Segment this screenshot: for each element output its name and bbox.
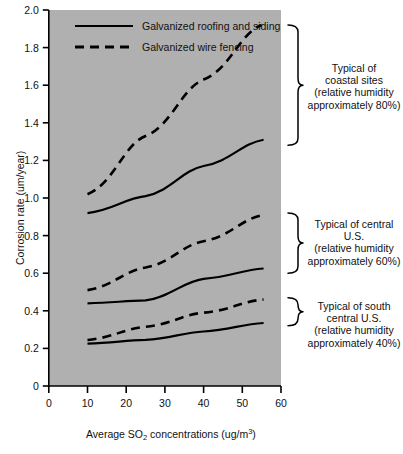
- annotation-line: approximately 40%): [306, 337, 402, 349]
- y-tick-label: 1.6: [24, 79, 39, 91]
- y-axis-tick-labels: 00.20.40.60.81.01.21.41.61.82.0: [24, 4, 39, 392]
- annotation-line: Typical of: [306, 62, 402, 74]
- y-axis-title: Corrosion rate (um/year): [14, 151, 26, 265]
- y-axis-ticks: [43, 10, 49, 386]
- y-tick-label: 1.4: [24, 117, 39, 129]
- x-tick-label: 30: [159, 397, 171, 409]
- legend-label: Galvanized roofing and siding: [142, 20, 281, 32]
- x-tick-label: 40: [198, 397, 210, 409]
- y-tick-label: 1.8: [24, 42, 39, 54]
- x-axis-title-sup: 3: [248, 427, 252, 436]
- y-tick-label: 2.0: [24, 4, 39, 16]
- annotation-line: (relative humidity: [306, 242, 402, 254]
- x-axis-ticks: [49, 386, 281, 393]
- annotation-brackets: [288, 25, 303, 326]
- annotation-line: (relative humidity: [306, 86, 402, 98]
- legend-label: Galvanized wire fencing: [142, 41, 254, 53]
- annotation-line: U.S.: [306, 230, 402, 242]
- x-axis-tick-labels: 0102030405060: [46, 397, 287, 409]
- x-axis-title-post: ): [252, 428, 256, 440]
- annotation-central: Typical of centralU.S.(relative humidity…: [306, 218, 402, 267]
- annotation-line: approximately 60%): [306, 255, 402, 267]
- annotation-line: central U.S.: [306, 312, 402, 324]
- y-tick-label: 0.8: [24, 230, 39, 242]
- annotation-line: (relative humidity: [306, 324, 402, 336]
- x-tick-label: 10: [82, 397, 94, 409]
- y-tick-label: 0.6: [24, 267, 39, 279]
- annotation-line: Typical of central: [306, 218, 402, 230]
- x-tick-label: 0: [46, 397, 52, 409]
- y-tick-label: 1.2: [24, 154, 39, 166]
- x-axis-title: Average SO2 concentrations (ug/m3): [86, 428, 256, 440]
- plot-area-background: [48, 10, 281, 386]
- y-tick-label: 0.4: [24, 305, 39, 317]
- annotation-coastal: Typical ofcoastal sites(relative humidit…: [306, 62, 402, 111]
- annotation-line: approximately 80%): [306, 99, 402, 111]
- annotation-line: Typical of south: [306, 300, 402, 312]
- x-axis-title-sub: 2: [143, 433, 147, 442]
- x-tick-label: 60: [275, 397, 287, 409]
- y-tick-label: 0: [33, 380, 39, 392]
- y-tick-label: 0.2: [24, 342, 39, 354]
- y-tick-label: 1.0: [24, 192, 39, 204]
- annotation-south-central: Typical of southcentral U.S.(relative hu…: [306, 300, 402, 349]
- x-tick-label: 20: [120, 397, 132, 409]
- x-tick-label: 50: [236, 397, 248, 409]
- x-axis-title-pre: Average SO: [86, 428, 143, 440]
- bracket-central: [288, 213, 303, 273]
- bracket-south-central: [288, 298, 303, 326]
- bracket-coastal: [288, 25, 303, 145]
- annotation-line: coastal sites: [306, 74, 402, 86]
- x-axis-title-mid: concentrations (ug/m: [147, 428, 248, 440]
- corrosion-rate-chart: 00.20.40.60.81.01.21.41.61.82.0 01020304…: [0, 0, 403, 454]
